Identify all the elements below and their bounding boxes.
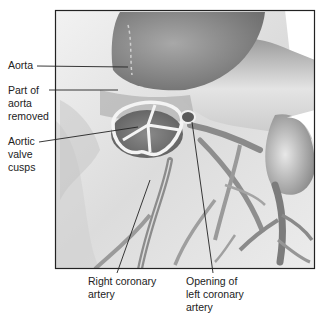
label-right-coronary-artery: Right coronary artery [88, 275, 156, 301]
diagram: Aorta Part of aorta removed Aortic valve… [0, 0, 320, 322]
label-part-of-aorta-removed: Part of aorta removed [8, 84, 49, 123]
heart-anatomy-illustration [0, 0, 320, 322]
label-aorta: Aorta [8, 59, 33, 72]
label-opening-left-coronary-artery: Opening of left coronary artery [186, 275, 244, 314]
illustration-body [55, 10, 315, 269]
label-aortic-valve-cusps: Aortic valve cusps [8, 135, 35, 174]
